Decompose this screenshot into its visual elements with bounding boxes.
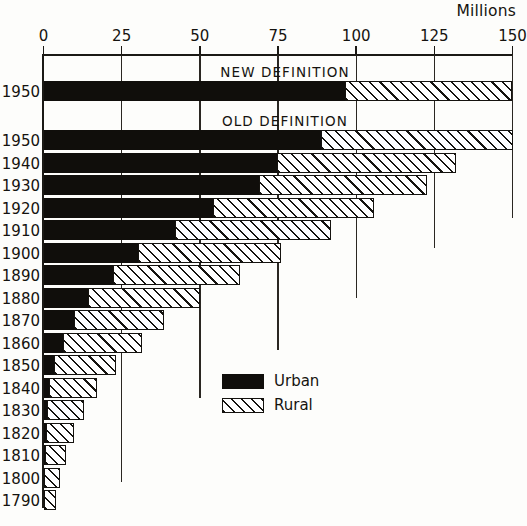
bar-segment-rural — [45, 445, 66, 465]
bar-row — [44, 265, 241, 285]
legend-swatch-urban — [222, 374, 264, 389]
bar-row — [44, 378, 97, 398]
bar-row — [44, 198, 375, 218]
x-tick-label-50: 50 — [190, 27, 209, 45]
bar-segment-urban — [44, 243, 138, 263]
bar-segment-urban — [44, 310, 75, 330]
bar-segment-rural — [49, 378, 97, 398]
bar-row — [44, 333, 142, 353]
year-label-1880-8: 1880 — [0, 290, 40, 308]
bar-segment-urban — [44, 198, 213, 218]
year-label-1920-4: 1920 — [0, 200, 40, 218]
legend-label-rural: Rural — [274, 396, 313, 414]
bar-segment-rural — [321, 130, 512, 150]
x-tick-label-150: 150 — [498, 27, 527, 45]
bar-row — [44, 423, 74, 443]
bar-segment-urban — [44, 220, 175, 240]
year-label-1950-1: 1950 — [0, 132, 40, 150]
bar-segment-rural — [46, 423, 74, 443]
year-label-1850-11: 1850 — [0, 357, 40, 375]
year-label-1940-2: 1940 — [0, 155, 40, 173]
x-tick-label-0: 0 — [39, 27, 49, 45]
group-label-old-definition: OLD DEFINITION — [222, 113, 348, 129]
year-label-1870-9: 1870 — [0, 312, 40, 330]
year-label-1800-16: 1800 — [0, 470, 40, 488]
bar-row — [44, 468, 61, 488]
x-axis-units-label: Millions — [456, 2, 516, 20]
group-label-new-definition: NEW DEFINITION — [220, 64, 349, 80]
bar-segment-rural — [47, 400, 84, 420]
bar-segment-rural — [44, 490, 56, 510]
bar-segment-urban — [44, 81, 346, 101]
year-label-1790-17: 1790 — [0, 492, 40, 510]
year-label-1910-5: 1910 — [0, 222, 40, 240]
legend-swatch-rural — [222, 398, 264, 413]
bar-row — [44, 355, 116, 375]
x-tick-label-125: 125 — [420, 27, 449, 45]
year-label-1820-14: 1820 — [0, 425, 40, 443]
bar-segment-rural — [54, 355, 115, 375]
bar-row — [44, 445, 67, 465]
year-label-1950-0: 1950 — [0, 83, 40, 101]
bar-row — [44, 243, 282, 263]
bar-segment-urban — [44, 288, 88, 308]
bar-row — [44, 81, 513, 101]
bar-segment-rural — [277, 153, 456, 173]
year-label-1930-3: 1930 — [0, 177, 40, 195]
bar-segment-rural — [138, 243, 281, 263]
bar-segment-rural — [175, 220, 331, 240]
bar-segment-rural — [213, 198, 374, 218]
year-label-1810-15: 1810 — [0, 447, 40, 465]
bar-segment-urban — [44, 153, 278, 173]
bar-segment-rural — [63, 333, 142, 353]
legend-label-urban: Urban — [274, 372, 319, 390]
bar-segment-rural — [74, 310, 164, 330]
year-label-1860-10: 1860 — [0, 335, 40, 353]
bar-segment-rural — [259, 175, 427, 195]
x-tick-label-75: 75 — [268, 27, 287, 45]
bar-row — [44, 175, 428, 195]
bar-row — [44, 490, 56, 510]
year-label-1900-6: 1900 — [0, 245, 40, 263]
bar-segment-urban — [44, 265, 113, 285]
bar-segment-urban — [44, 130, 322, 150]
bar-row — [44, 153, 456, 173]
bar-row — [44, 288, 201, 308]
year-label-1830-13: 1830 — [0, 402, 40, 420]
bar-segment-urban — [44, 333, 63, 353]
bar-row — [44, 310, 165, 330]
bar-row — [44, 400, 84, 420]
bar-segment-rural — [88, 288, 201, 308]
bar-segment-urban — [44, 175, 260, 195]
x-tick-label-100: 100 — [342, 27, 371, 45]
bar-segment-rural — [44, 468, 60, 488]
year-label-1890-7: 1890 — [0, 267, 40, 285]
bar-row — [44, 220, 332, 240]
bar-segment-rural — [345, 81, 512, 101]
bar-row — [44, 130, 513, 150]
bar-segment-rural — [113, 265, 241, 285]
x-tick-label-25: 25 — [112, 27, 131, 45]
bar-segment-urban — [44, 355, 55, 375]
year-label-1840-12: 1840 — [0, 380, 40, 398]
